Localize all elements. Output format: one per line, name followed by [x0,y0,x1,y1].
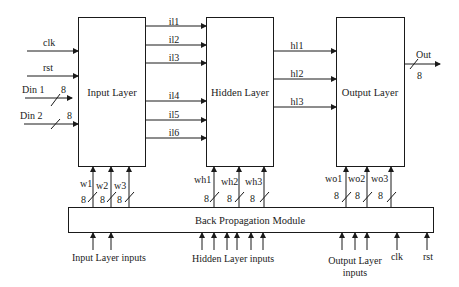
hl2-label: hl2 [291,69,304,79]
wo1-width: 8 [334,191,339,201]
wo1-label: wo1 [325,174,342,184]
w2-label: w2 [96,181,108,191]
il4-label: il4 [169,91,180,101]
bp-rst-label: rst [423,252,433,262]
il3-label: il3 [169,53,180,63]
hl1-label: hl1 [291,41,304,51]
il5-label: il5 [169,110,180,120]
hidden-layer-inputs-label: Hidden Layer inputs [192,254,274,264]
wh1-width: 8 [204,194,209,204]
backprop-label: Back Propagation Module [195,215,305,226]
hl3-label: hl3 [291,97,304,107]
il1-label: il1 [169,17,180,27]
il2-label: il2 [169,35,180,45]
rst-label: rst [43,63,53,73]
din1-label: Din 1 [22,85,45,95]
wh2-label: wh2 [221,177,238,187]
wo3-width: 8 [378,191,383,201]
wo2-width: 8 [355,191,360,201]
wh3-label: wh3 [245,177,262,187]
din1-width: 8 [61,85,66,95]
w2-width: 8 [100,195,105,205]
wh1-label: wh1 [194,175,211,185]
din2-label: Din 2 [20,111,43,121]
w3-width: 8 [117,195,122,205]
hidden-layer-label: Hidden Layer [211,87,269,98]
w3-label: w3 [114,181,126,191]
output-layer-inputs-label-line2: inputs [343,268,367,278]
bp-clk-label: clk [391,252,403,262]
out-width: 8 [417,71,422,81]
input-layer-inputs-label: Input Layer inputs [72,253,146,263]
il6-label: il6 [169,128,180,138]
out-label: Out [416,50,431,60]
wo2-label: wo2 [348,174,365,184]
wo3-label: wo3 [371,174,388,184]
output-layer-inputs-label-line1: Output Layer [328,256,382,266]
w1-width: 8 [81,195,86,205]
w1-label: w1 [80,179,92,189]
wh3-width: 8 [250,194,255,204]
clk-label: clk [43,38,55,48]
output-layer-label: Output Layer [342,87,398,98]
input-layer-label: Input Layer [87,87,136,98]
wh2-width: 8 [227,194,232,204]
din2-width: 8 [67,111,72,121]
diagram-canvas [0,0,459,287]
